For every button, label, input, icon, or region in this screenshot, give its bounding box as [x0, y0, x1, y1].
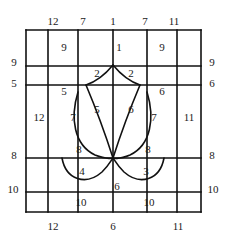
top-label-1: 7: [80, 16, 86, 27]
top-label-3: 7: [142, 16, 148, 27]
region-label-11: 7: [151, 112, 157, 123]
region-label-0: 9: [61, 42, 67, 53]
region-label-13: 8: [76, 144, 82, 155]
region-label-9: 5: [94, 104, 100, 115]
region-label-1: 1: [116, 42, 122, 53]
region-label-17: 6: [114, 181, 120, 192]
region-label-18: 10: [76, 197, 87, 208]
region-label-3: 2: [94, 68, 100, 79]
tulip-curve-leaf-left: [62, 158, 113, 180]
top-label-2: 1: [110, 16, 116, 27]
top-label-4: 11: [169, 16, 180, 27]
region-label-6: 6: [159, 86, 165, 97]
bottom-label-2: 11: [173, 221, 184, 232]
region-label-10: 6: [128, 104, 134, 115]
top-label-0: 12: [48, 16, 59, 27]
left-label-2: 8: [11, 150, 17, 161]
right-label-2: 8: [209, 150, 215, 161]
region-label-5: 5: [61, 86, 67, 97]
tulip-curve-leaf-right: [113, 158, 164, 180]
bottom-label-1: 6: [110, 221, 116, 232]
diagram-canvas: 1271711 12611 95810 96810 91922561275671…: [0, 0, 225, 239]
bottom-label-0: 12: [48, 221, 59, 232]
region-label-12: 11: [184, 112, 195, 123]
right-label-3: 10: [208, 184, 219, 195]
region-label-2: 9: [159, 42, 165, 53]
left-label-1: 5: [11, 78, 17, 89]
region-label-19: 10: [144, 197, 155, 208]
region-label-7: 12: [34, 112, 45, 123]
left-label-3: 10: [8, 184, 19, 195]
left-label-0: 9: [11, 57, 17, 68]
right-label-1: 6: [209, 78, 215, 89]
tulip-curve-inner-left: [86, 85, 113, 158]
tulip-curve-inner-right: [113, 85, 140, 158]
tulip-curve-petal-right-top: [113, 65, 140, 85]
region-label-14: 8: [145, 144, 151, 155]
region-label-8: 7: [70, 112, 76, 123]
region-label-16: 3: [143, 166, 149, 177]
region-label-4: 2: [128, 68, 134, 79]
right-label-0: 9: [209, 57, 215, 68]
region-label-15: 4: [79, 166, 85, 177]
